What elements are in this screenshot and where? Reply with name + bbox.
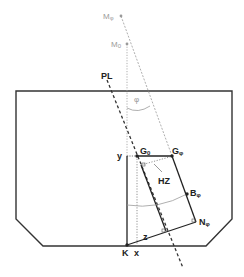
right-angle-mark (162, 229, 165, 232)
label-y: y (117, 151, 122, 161)
g0-parallel-line (141, 165, 166, 231)
k-point (125, 243, 128, 246)
mphi-gphi-line (121, 16, 172, 156)
hz-dotted (141, 156, 173, 165)
label-m-0: M0 (111, 40, 122, 49)
right-angle-mark (142, 163, 145, 166)
label-g-phi: Gφ (172, 146, 184, 156)
g-0-point (135, 154, 138, 157)
stability-diagram: Mφ M0 PL φ G0 Gφ y HZ Bφ Nφ z K x (0, 0, 244, 277)
label-g-0: G0 (140, 146, 151, 156)
label-phi: φ (134, 95, 139, 104)
label-x: x (134, 248, 139, 258)
m-phi-point (120, 15, 123, 18)
label-hz: HZ (158, 176, 170, 186)
phi-angle-arc (127, 106, 150, 111)
label-z: z (143, 232, 148, 242)
label-b-phi: Bφ (190, 188, 202, 198)
label-m-phi: Mφ (103, 12, 114, 21)
label-n-phi: Nφ (199, 217, 211, 227)
m-0-point (126, 43, 129, 46)
b-phi-point (185, 192, 188, 195)
label-pl: PL (101, 71, 113, 81)
k-nphi-line (127, 222, 196, 245)
label-k: K (122, 248, 129, 258)
hz-leader (154, 164, 162, 172)
